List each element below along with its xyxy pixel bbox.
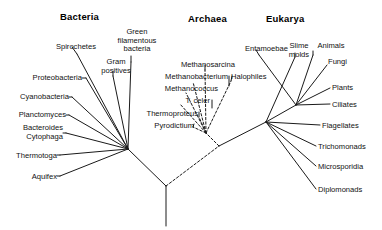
- taxon-label-green-filamentous: Greenfilamentousbacteria: [113, 28, 161, 54]
- taxon-label-line: Methanococcus: [152, 85, 218, 94]
- taxon-label-line: Flagellates: [322, 122, 372, 131]
- taxon-label-microsporidia: Microsporidia: [318, 163, 376, 172]
- taxon-label-line: Animals: [314, 42, 348, 51]
- taxon-label-line: Trichomonads: [318, 143, 376, 152]
- backbone-archeuk-eukarya: [219, 122, 266, 146]
- domain-heading-eukarya: Eukarya: [266, 13, 304, 24]
- taxon-label-entamoebae: Entamoebae: [238, 45, 288, 54]
- taxon-label-line: Proteobacteria: [20, 74, 82, 83]
- backbone-eukfan-upper: [266, 105, 296, 122]
- branch-diplomonads: [266, 122, 316, 189]
- domain-heading-archaea: Archaea: [188, 13, 227, 24]
- taxon-label-slime-molds: Slimemolds: [285, 42, 313, 59]
- taxon-label-line: T. celer: [160, 97, 210, 106]
- taxon-label-methanobacterium: Methanobacterium: [152, 73, 228, 82]
- backbone-root-archeuk: [166, 146, 219, 186]
- taxon-label-line: Halophiles: [231, 73, 277, 82]
- branch-flagellates: [266, 122, 320, 125]
- taxon-label-pyrodictium: Pyrodictium: [136, 122, 194, 131]
- taxon-label-cyanobacteria: Cyanobacteria: [8, 93, 69, 102]
- taxon-label-gram-positives: Grampositives: [100, 58, 132, 75]
- taxon-label-aquifex: Aquifex: [5, 173, 57, 182]
- taxon-label-line: bacteria: [113, 45, 161, 54]
- taxon-label-planctomyces: Planctomyces: [6, 111, 66, 120]
- taxon-label-line: Plants: [332, 84, 364, 93]
- taxon-label-bacteroides-cytophaga: BacteroidesCytophaga: [8, 124, 63, 141]
- branch-aquifex: [60, 149, 128, 176]
- taxon-label-flagellates: Flagellates: [322, 122, 372, 131]
- taxon-label-line: Cyanobacteria: [8, 93, 69, 102]
- taxon-label-line: molds: [285, 51, 313, 60]
- taxon-label-line: Fungi: [328, 58, 358, 67]
- taxon-label-line: Methanobacterium: [152, 73, 228, 82]
- branch-ciliates: [296, 104, 330, 105]
- taxon-label-spirochetes: Spirochetes: [38, 43, 96, 52]
- taxon-label-fungi: Fungi: [328, 58, 358, 67]
- taxon-label-line: Thermotoga: [5, 152, 57, 161]
- taxon-label-trichomonads: Trichomonads: [318, 143, 376, 152]
- taxon-label-animals: Animals: [314, 42, 348, 51]
- taxon-label-ciliates: Ciliates: [332, 101, 368, 110]
- branch-cyanobacteria: [72, 97, 128, 149]
- taxon-label-halophiles: Halophiles: [231, 73, 277, 82]
- taxon-label-t-celer: T. celer: [160, 97, 210, 106]
- branch-thermotoga: [60, 149, 128, 155]
- taxon-label-line: Diplomonads: [318, 186, 374, 195]
- taxon-label-line: Entamoebae: [238, 45, 288, 54]
- branch-slime-molds: [266, 57, 295, 122]
- backbone-archeuk-archaea: [206, 133, 219, 146]
- taxon-label-line: Pyrodictium: [136, 122, 194, 131]
- taxon-label-line: Spirochetes: [38, 43, 96, 52]
- branch-proteobacteria: [86, 78, 128, 149]
- branch-microsporidia: [266, 122, 316, 166]
- taxon-label-line: Aquifex: [5, 173, 57, 182]
- taxon-label-plants: Plants: [332, 84, 364, 93]
- taxon-label-line: Microsporidia: [318, 163, 376, 172]
- branch-trichomonads: [266, 122, 316, 146]
- domain-heading-bacteria: Bacteria: [60, 11, 99, 22]
- taxon-label-thermoproteus: Thermoproteus: [134, 110, 198, 119]
- taxon-label-proteobacteria: Proteobacteria: [20, 74, 82, 83]
- taxon-label-line: positives: [100, 67, 132, 76]
- phylogenetic-tree-figure: BacteriaArchaeaEukarya SpirochetesGreenf…: [0, 0, 382, 230]
- taxon-label-line: Planctomyces: [6, 111, 66, 120]
- taxon-label-diplomonads: Diplomonads: [318, 186, 374, 195]
- backbone-root-bacteria: [128, 149, 166, 186]
- taxon-label-line: Cytophaga: [8, 133, 63, 142]
- taxon-label-thermotoga: Thermotoga: [5, 152, 57, 161]
- taxon-label-line: Methanosarcina: [173, 61, 235, 70]
- taxon-label-line: Thermoproteus: [134, 110, 198, 119]
- branch-fungi: [296, 65, 327, 105]
- branch-gram-positives: [113, 76, 128, 149]
- taxon-label-methanococcus: Methanococcus: [152, 85, 218, 94]
- taxon-label-methanosarcina: Methanosarcina: [173, 61, 235, 70]
- taxon-label-line: Ciliates: [332, 101, 368, 110]
